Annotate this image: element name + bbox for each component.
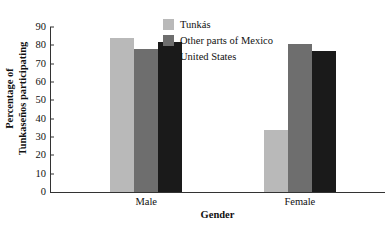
legend-swatch-icon <box>163 35 174 46</box>
y-axis-tick-label: 80 <box>26 40 46 51</box>
bar <box>264 130 288 192</box>
x-axis-category-label: Female <box>284 196 315 207</box>
legend-item: United States <box>163 48 273 64</box>
bar <box>134 49 158 192</box>
x-axis-title: Gender <box>50 209 385 220</box>
y-axis-tick-label: 70 <box>26 58 46 69</box>
y-axis-tick-labels: 0102030405060708090 <box>24 0 46 225</box>
legend-item: Tunkás <box>163 16 273 32</box>
bar <box>312 51 336 192</box>
legend-item: Other parts of Mexico <box>163 32 273 48</box>
bar-chart: Percentage of Tunkaseños participating 0… <box>0 0 392 225</box>
bar <box>288 44 312 193</box>
legend-swatch-icon <box>163 19 174 30</box>
y-axis-tick-label: 0 <box>26 187 46 198</box>
bar <box>110 38 134 192</box>
y-axis-tick-label: 90 <box>26 22 46 33</box>
y-axis-tick-label: 40 <box>26 113 46 124</box>
legend-label: Other parts of Mexico <box>180 35 273 46</box>
y-axis-tick-label: 20 <box>26 150 46 161</box>
legend-label: United States <box>180 51 236 62</box>
y-axis-tick-label: 60 <box>26 77 46 88</box>
bar <box>158 42 182 192</box>
y-axis-title-line1: Percentage of <box>5 41 18 155</box>
x-axis-line <box>50 192 385 193</box>
legend-label: Tunkás <box>180 19 211 30</box>
chart-legend: TunkásOther parts of MexicoUnited States <box>163 16 273 64</box>
y-axis-tick-label: 10 <box>26 168 46 179</box>
legend-swatch-icon <box>163 51 174 62</box>
x-axis-category-label: Male <box>135 196 157 207</box>
y-axis-tick-label: 30 <box>26 132 46 143</box>
y-axis-tick-label: 50 <box>26 95 46 106</box>
